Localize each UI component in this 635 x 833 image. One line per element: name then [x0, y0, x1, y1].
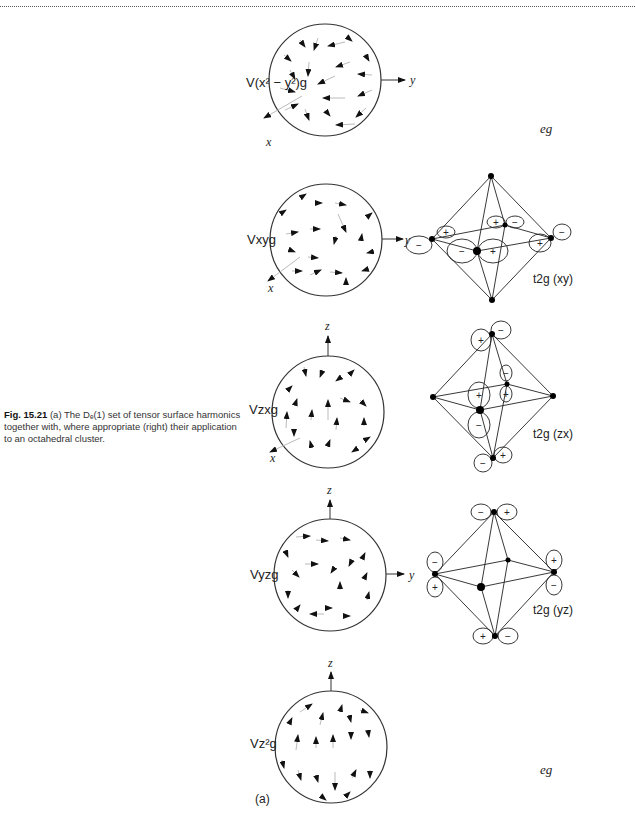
svg-text:+: + — [500, 450, 506, 461]
figure-canvas: V(x² − y²)g y x eg Vxyg y x — [0, 0, 635, 833]
svg-text:+: + — [478, 335, 484, 346]
axis-y: y — [404, 233, 411, 247]
sphere-z2: Vz²g z (a) eg — [250, 656, 553, 806]
xy-lobe-signs: −+ −+ +− +− — [416, 217, 565, 257]
label-v-xy: Vxyg — [247, 232, 276, 247]
svg-text:−: − — [459, 246, 465, 257]
octahedron-t2g-zx — [433, 321, 553, 472]
svg-text:−: − — [476, 420, 482, 431]
svg-text:+: + — [493, 217, 499, 228]
axis-x: x — [265, 135, 272, 149]
svg-text:+: + — [476, 390, 482, 401]
svg-text:+: + — [480, 631, 486, 642]
octahedron-zx-vertices — [430, 331, 556, 461]
label-v-zx: Vzxg — [249, 402, 278, 417]
label-t2g-zx: t2g (zx) — [533, 427, 573, 441]
axis-z: z — [324, 319, 330, 333]
axis-x: x — [267, 281, 274, 295]
svg-text:−: − — [478, 507, 484, 518]
label-eg-top: eg — [540, 121, 553, 136]
svg-text:+: + — [504, 507, 510, 518]
yz-lobe-signs: −+ −+ +− +− — [432, 507, 557, 642]
label-v-z2: Vz²g — [250, 736, 277, 751]
svg-text:+: + — [443, 227, 449, 238]
sphere-x2-y2: V(x² − y²)g y x eg — [246, 24, 553, 149]
axis-y: y — [409, 73, 416, 87]
svg-text:+: + — [503, 389, 509, 400]
svg-text:−: − — [432, 557, 438, 568]
axis-y: y — [408, 568, 415, 582]
label-t2g-yz: t2g (yz) — [533, 603, 573, 617]
svg-text:−: − — [551, 580, 557, 591]
svg-text:+: + — [551, 555, 557, 566]
sphere-yz: Vyzg z y — [250, 483, 415, 631]
svg-text:−: − — [505, 631, 511, 642]
axis-z: z — [327, 656, 333, 670]
svg-text:−: − — [503, 368, 509, 379]
svg-text:+: + — [432, 582, 438, 593]
label-v-yz: Vyzg — [250, 567, 278, 582]
axis-z: z — [326, 483, 332, 497]
svg-text:−: − — [498, 325, 504, 336]
svg-text:−: − — [559, 227, 565, 238]
svg-text:+: + — [537, 238, 543, 249]
svg-text:−: − — [416, 240, 422, 251]
label-v-x2-y2: V(x² − y²)g — [246, 75, 307, 90]
label-t2g-xy: t2g (xy) — [533, 272, 573, 286]
axis-x: x — [269, 451, 276, 465]
sphere-xy: Vxyg y x — [247, 184, 411, 296]
svg-text:+: + — [490, 246, 496, 257]
octahedron-t2g-yz — [427, 504, 562, 644]
svg-text:−: − — [512, 217, 518, 228]
sphere-zx: Vzxg z x — [249, 319, 384, 468]
label-eg-bottom: eg — [540, 762, 553, 777]
octahedron-yz-vertices — [432, 509, 557, 639]
panel-label: (a) — [255, 792, 270, 806]
svg-text:−: − — [480, 458, 486, 469]
